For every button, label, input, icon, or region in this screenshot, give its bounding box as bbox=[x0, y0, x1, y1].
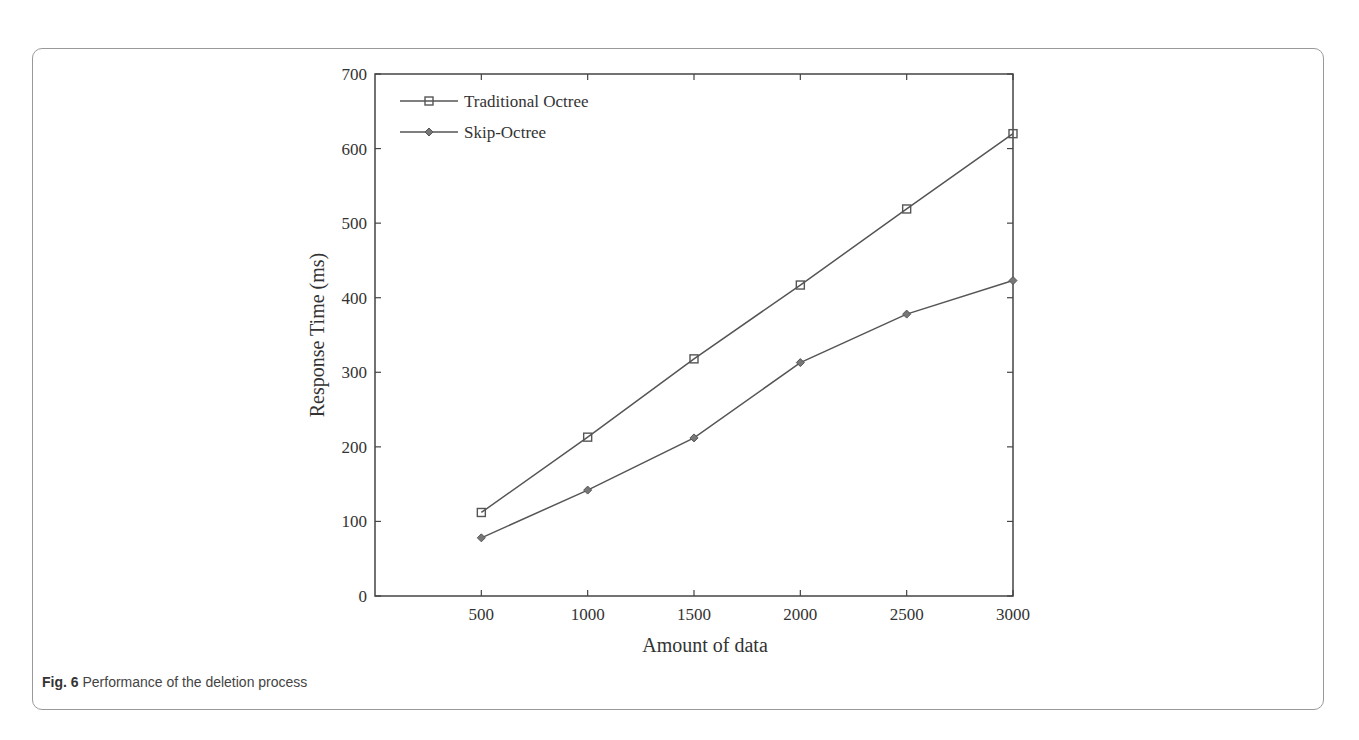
y-tick-label: 200 bbox=[342, 438, 368, 457]
x-tick-label: 500 bbox=[469, 605, 495, 624]
y-axis-label: Response Time (ms) bbox=[306, 253, 329, 417]
legend-item: Traditional Octree bbox=[400, 92, 588, 111]
legend-label: Skip-Octree bbox=[464, 123, 546, 142]
y-tick-label: 0 bbox=[359, 587, 368, 606]
line-chart: 0100200300400500600700500100015002000250… bbox=[0, 0, 1359, 740]
y-tick-label: 100 bbox=[342, 512, 368, 531]
x-axis-label: Amount of data bbox=[642, 634, 768, 656]
figure-caption: Fig. 6 Performance of the deletion proce… bbox=[42, 674, 307, 690]
x-tick-label: 1000 bbox=[571, 605, 605, 624]
caption-label: Fig. 6 bbox=[42, 674, 79, 690]
y-tick-label: 400 bbox=[342, 289, 368, 308]
y-tick-label: 600 bbox=[342, 140, 368, 159]
y-tick-label: 500 bbox=[342, 214, 368, 233]
caption-text: Performance of the deletion process bbox=[79, 674, 308, 690]
series-group bbox=[477, 130, 1017, 542]
plot-box bbox=[375, 74, 1013, 596]
legend-label: Traditional Octree bbox=[464, 92, 588, 111]
axes: 0100200300400500600700500100015002000250… bbox=[342, 65, 1031, 624]
y-tick-label: 300 bbox=[342, 363, 368, 382]
x-tick-label: 1500 bbox=[677, 605, 711, 624]
legend: Traditional OctreeSkip-Octree bbox=[400, 92, 588, 142]
series-traditional-octree bbox=[477, 130, 1017, 517]
y-tick-label: 700 bbox=[342, 65, 368, 84]
x-tick-label: 3000 bbox=[996, 605, 1030, 624]
series-skip-octree bbox=[477, 277, 1017, 542]
x-tick-label: 2500 bbox=[890, 605, 924, 624]
legend-item: Skip-Octree bbox=[400, 123, 546, 142]
x-tick-label: 2000 bbox=[783, 605, 817, 624]
